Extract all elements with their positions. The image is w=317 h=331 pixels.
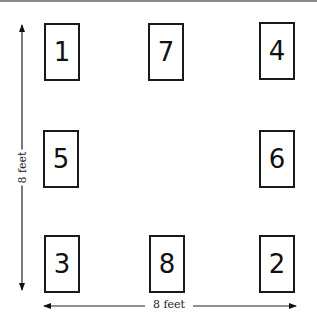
desk-4: 4 <box>259 22 295 80</box>
desk-7: 7 <box>148 23 184 81</box>
desk-1: 1 <box>44 23 80 81</box>
vertical-dimension-text: 8 feet <box>16 149 29 185</box>
horizontal-dimension-label: 8 feet <box>145 298 193 311</box>
desk-3: 3 <box>44 235 80 293</box>
desk-6: 6 <box>259 130 295 188</box>
desk-5: 5 <box>43 130 79 188</box>
vertical-dimension-label: 8 feet <box>14 150 30 184</box>
desk-2: 2 <box>259 235 295 293</box>
desk-8: 8 <box>149 235 185 293</box>
